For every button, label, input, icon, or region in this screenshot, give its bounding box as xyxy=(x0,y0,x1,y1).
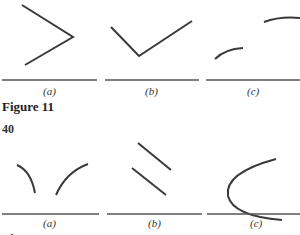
figure12-panel-c xyxy=(207,159,300,220)
figure11-label-c: (c) xyxy=(247,85,259,97)
figure-canvas xyxy=(0,0,300,235)
arc-right xyxy=(264,18,300,23)
figure11-label-a: (a) xyxy=(43,85,56,97)
figure11-caption: Figure 11 xyxy=(2,99,54,115)
figure12-label-b: (b) xyxy=(148,217,161,229)
figure12-panel-b xyxy=(107,143,202,214)
arc-right xyxy=(56,164,88,195)
page-number: 40 xyxy=(2,122,14,137)
arc-left xyxy=(215,48,243,59)
segment-upper xyxy=(138,143,171,170)
sideways-parabola xyxy=(228,159,282,220)
figure12-label-c: (c) xyxy=(250,217,262,229)
v-graph xyxy=(111,21,192,56)
figure12-caption: Figure 12 xyxy=(2,231,55,235)
figure11-panel-c xyxy=(206,18,300,81)
figure11-label-b: (b) xyxy=(145,85,158,97)
figure11-panel-b xyxy=(105,21,199,80)
segment-lower xyxy=(132,168,166,195)
arc-left xyxy=(17,165,35,193)
figure11-panel-a xyxy=(2,5,97,80)
figure12-label-a: (a) xyxy=(43,217,56,229)
angle-graph xyxy=(22,5,73,65)
figure12-panel-a xyxy=(2,164,99,214)
